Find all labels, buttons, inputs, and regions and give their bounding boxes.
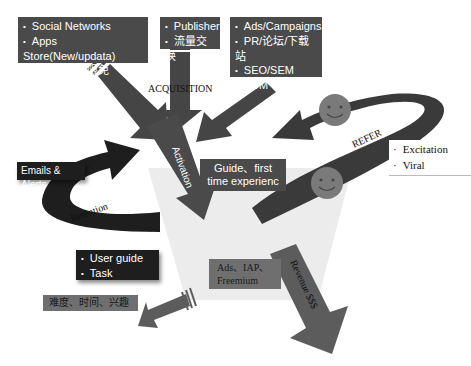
acquisition-source-ads: Ads/Campaigns PR/论坛/下载站 SEO/SEM EDM (230, 17, 322, 77)
source-item: 流量交换 (165, 34, 215, 63)
activation-note: Guide、first time experienc (200, 159, 286, 191)
acquisition-source-publisher: Publisher 流量交换 (160, 17, 220, 49)
smiley-face-icon (311, 167, 343, 199)
revenue-note: Ads、IAP、Freemium (209, 259, 281, 289)
source-item: 冰点促销，限免 (23, 63, 143, 78)
acquisition-source-social: Social Networks Apps Store(New/updata) 冰… (18, 17, 148, 63)
source-item: Publisher (165, 19, 215, 34)
source-item: PR/论坛/下载站 (235, 34, 317, 63)
source-item: SEO/SEM (235, 63, 317, 78)
acquisition-label: ACQUISITION (148, 83, 212, 94)
retention-item: Task (81, 266, 154, 281)
referral-item: Viral (393, 157, 471, 173)
referral-item: Excitation (393, 141, 471, 157)
source-item: EDM (235, 78, 317, 93)
retention-items-box: User guide Task (76, 250, 159, 280)
retention-trigger-box: Emails & Alerts (17, 162, 85, 180)
source-item: Social Networks (23, 19, 143, 34)
source-item: Ads/Campaigns (235, 19, 317, 34)
retention-loop-arrow (42, 140, 160, 232)
churn-arrow (138, 288, 196, 328)
source-item: Apps Store(New/updata) (23, 34, 143, 63)
smiley-face-icon (319, 94, 351, 126)
referral-items-card: Excitation Viral (389, 140, 471, 176)
retention-item: User guide (81, 251, 154, 266)
churn-note: 难度、时间、兴趣 (43, 295, 138, 311)
